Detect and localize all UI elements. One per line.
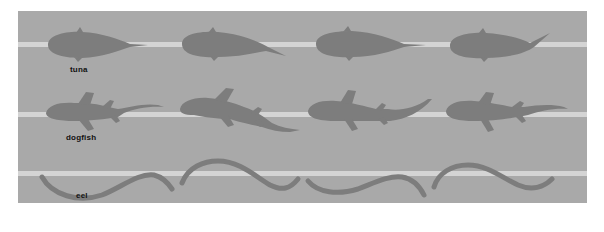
tuna-silhouette-frame-4 (450, 28, 550, 62)
fish-swimming-diagram: tuna dogfish eel (18, 11, 587, 203)
eel-silhouette-frame-1 (42, 175, 172, 198)
eel-silhouette-frame-4 (434, 165, 552, 188)
dogfish-silhouette-frame-3 (308, 90, 432, 131)
dogfish-silhouette-frame-2 (180, 88, 300, 132)
row-label-dogfish: dogfish (66, 133, 96, 142)
dogfish-silhouette-frame-1 (46, 92, 164, 131)
eel-silhouette-frame-3 (308, 177, 424, 195)
tuna-silhouette-frame-1 (48, 27, 148, 62)
row-label-eel: eel (76, 191, 88, 200)
row-label-tuna: tuna (70, 65, 88, 74)
diagram-canvas (18, 11, 587, 203)
